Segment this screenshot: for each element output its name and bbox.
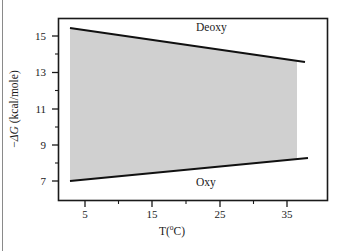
x-tick-label-25: 25 xyxy=(208,209,232,220)
y-axis-title: −ΔG (kcal/mole) xyxy=(9,70,21,147)
deoxy-series-label: Deoxy xyxy=(196,22,227,34)
y-axis-title-units: (kcal/mole) xyxy=(8,70,20,123)
y-tick-label-9: 9 xyxy=(24,140,46,151)
x-axis-title-text: T( xyxy=(159,225,170,237)
x-tick-label-5: 5 xyxy=(73,209,97,220)
x-axis-title: T(oC) xyxy=(159,226,185,238)
y-tick-label-15: 15 xyxy=(24,31,46,42)
oxy-series-label: Oxy xyxy=(196,177,216,189)
y-axis-title-prefix: − xyxy=(8,141,20,148)
x-axis-title-suffix: C) xyxy=(174,225,186,237)
x-tick-label-15: 15 xyxy=(140,209,164,220)
x-tick-label-35: 35 xyxy=(275,209,299,220)
chart-figure: 7 9 11 13 15 5 15 25 35 −ΔG (kcal/mole) … xyxy=(0,0,340,251)
y-tick-label-7: 7 xyxy=(24,176,46,187)
y-axis-major-ticks xyxy=(52,36,59,181)
y-tick-label-13: 13 xyxy=(24,67,46,78)
y-axis-title-symbol: ΔG xyxy=(8,126,20,141)
y-tick-label-11: 11 xyxy=(24,104,46,115)
